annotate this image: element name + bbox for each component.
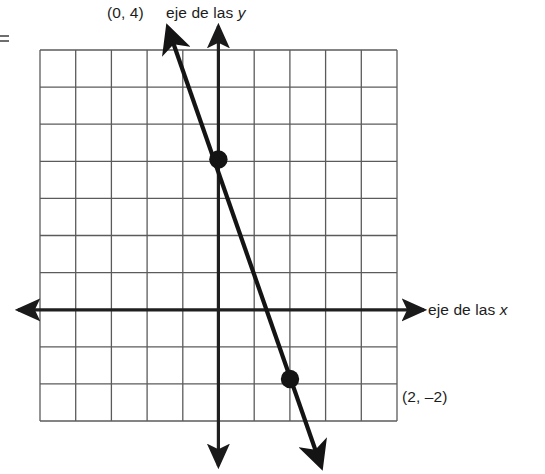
y-axis-label-text: eje de las [166,4,238,21]
x-axis-label-variable: x [500,301,508,318]
coordinate-plane-graphic [0,0,545,474]
x-axis-label-text: eje de las [428,301,500,318]
x-axis-label: eje de las x [428,302,508,318]
data-point-0-4 [209,150,227,168]
point-label-0-4: (0, 4) [107,5,144,21]
y-axis-label: eje de las y [166,5,246,21]
data-point-2-neg2 [281,370,299,388]
y-axis-label-variable: y [238,4,246,21]
point-label-2-neg2: (2, –2) [402,389,448,405]
figure-canvas: (0, 4) eje de las y eje de las x (2, –2) [0,0,545,474]
plotted-line [168,28,321,466]
